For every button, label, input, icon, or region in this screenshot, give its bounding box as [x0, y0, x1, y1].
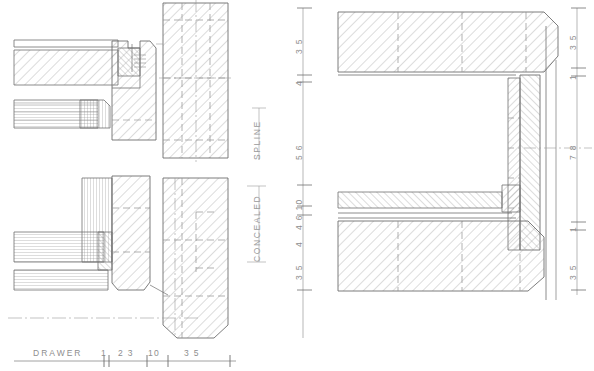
concealed-joint-lower-assembly [14, 176, 168, 295]
bottom-scale-tick-2: 2 3 [118, 348, 134, 358]
right-left-dimension-rule [297, 8, 312, 338]
right-dim-label-2: 1 [568, 74, 578, 80]
bottom-scale-tick-3: 10 [148, 348, 160, 358]
spline-joint-upper-assembly [14, 40, 156, 140]
right-top-rail [338, 12, 558, 72]
left-dim-label-2: 4 [294, 80, 304, 86]
section-label-concealed: CONCEALED [252, 195, 262, 262]
right-view [297, 8, 592, 338]
upper-horizontal-rail [14, 50, 118, 85]
section-label-spline: SPLINE [252, 120, 262, 160]
concealed-tongue [98, 232, 112, 270]
bottom-scale-tick-4: 3 5 [184, 348, 200, 358]
right-thin-panel [338, 192, 502, 208]
left-dim-label-5: 4 [294, 241, 304, 247]
concealed-horizontal-grain-panel [14, 232, 104, 262]
upper-rail-cap [14, 40, 118, 47]
spline-tongue [118, 48, 140, 76]
right-dim-label-4: 1 [568, 226, 578, 232]
right-bottom-rail [338, 221, 544, 291]
left-dim-label-1: 3 5 [294, 38, 304, 54]
right-panel-tenon [502, 185, 520, 212]
bottom-scale-title: DRAWER [33, 348, 82, 358]
left-dim-label-3: 5 6 [294, 144, 304, 160]
bottom-scale-tick-1: 1 [101, 348, 107, 358]
right-dim-label-1: 3 5 [568, 34, 578, 50]
spline-column-body [163, 3, 228, 158]
spline-post-column [156, 0, 232, 162]
right-dim-label-5: 3 5 [568, 264, 578, 280]
concealed-column-body [163, 178, 228, 338]
left-dim-label-6: 3 5 [294, 264, 304, 280]
drawing-canvas [0, 0, 594, 371]
concealed-vertical-post [112, 176, 150, 290]
concealed-lower-grain-panel [14, 270, 108, 290]
left-dim-label-4: 4 6 10 [294, 199, 304, 230]
left-view [8, 0, 266, 367]
right-dim-label-3: 7 8 [568, 144, 578, 160]
